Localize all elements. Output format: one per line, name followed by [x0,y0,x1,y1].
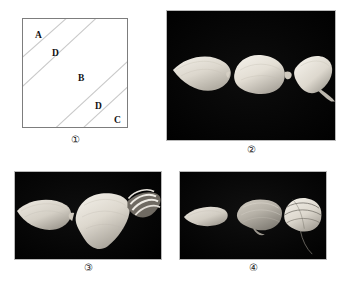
panel-3-photograph: ③ [0,163,170,285]
zone-label-d-upper: D [52,49,59,59]
panel-4-specimens [180,172,326,259]
panel-2-image [166,10,336,141]
panel-4-image [179,171,327,260]
panel-2-photograph: ② [160,0,342,162]
panel-4-photograph: ④ [170,163,342,285]
schematic-box: A D B D C [22,18,128,128]
zone-label-d-lower: D [95,102,102,112]
panel-1-schematic: A D B D C ① [0,0,150,160]
panel-2-specimens [167,11,335,140]
panel-3-image [14,171,162,260]
panel-4-caption: ④ [179,264,327,274]
zone-label-b: B [78,74,84,84]
zone-label-c: C [114,116,121,126]
figure-root: A D B D C ① [0,0,342,285]
panel-1-caption: ① [22,136,128,146]
panel-3-specimens [15,172,161,259]
panel-3-caption: ③ [14,264,162,274]
zone-label-a: A [35,31,42,41]
panel-2-caption: ② [166,146,336,156]
